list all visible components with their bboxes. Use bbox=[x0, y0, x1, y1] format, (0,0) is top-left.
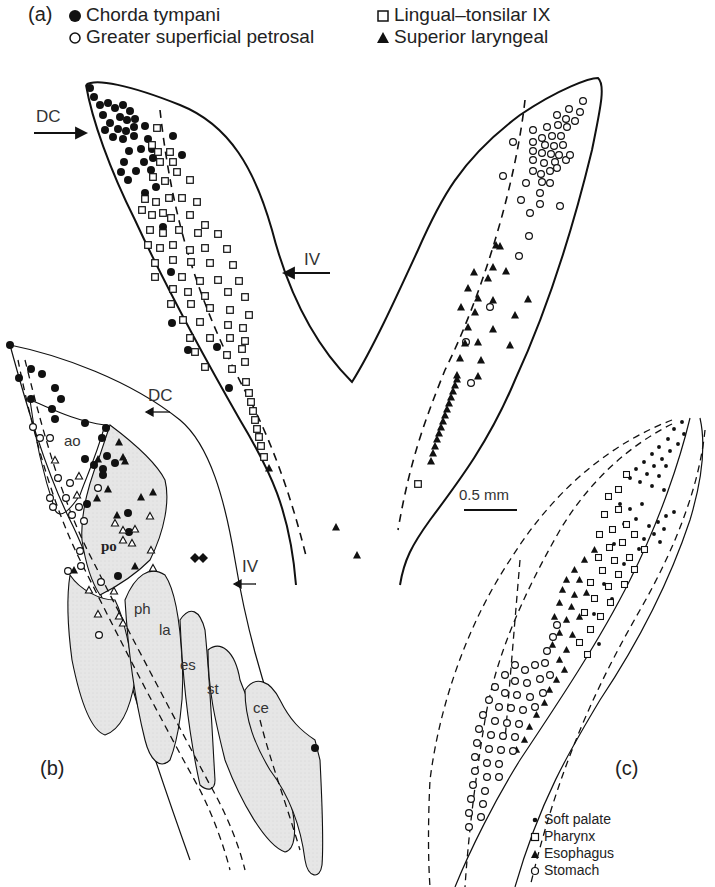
subnucleus-label-ao: ao bbox=[64, 432, 81, 449]
panel-a-tag: (a) bbox=[28, 3, 52, 26]
panel-b-diamond-marks bbox=[190, 553, 208, 563]
panel-c-tag: (c) bbox=[615, 757, 638, 780]
panel-b-shaded-subnuclei bbox=[30, 400, 323, 875]
legend-a-item-superior-laryngeal: Superior laryngeal bbox=[376, 26, 548, 48]
filled-circle-icon bbox=[68, 9, 82, 23]
open-square-icon bbox=[376, 9, 390, 23]
legend-a-item-greater-superficial-petrosal: Greater superficial petrosal bbox=[68, 26, 314, 48]
legend-c-item-pharynx: Pharynx bbox=[530, 829, 595, 844]
legend-c-item-soft-palate: Soft palate bbox=[530, 812, 611, 827]
direction-label-a-iv: IV bbox=[304, 250, 320, 270]
direction-label-b-dc: DC bbox=[148, 386, 173, 406]
open-circle-icon bbox=[68, 31, 82, 45]
figure-canvas bbox=[0, 0, 715, 887]
panel-a-arrows bbox=[34, 128, 330, 278]
scale-bar-label: 0.5 mm bbox=[459, 486, 509, 503]
small-dot-icon bbox=[530, 815, 540, 825]
open-square-icon bbox=[530, 832, 540, 842]
filled-triangle-icon bbox=[376, 31, 390, 45]
subnucleus-label-ph: ph bbox=[134, 600, 151, 617]
subnucleus-label-la: la bbox=[159, 621, 171, 638]
panel-c-points bbox=[466, 420, 686, 830]
filled-triangle-icon bbox=[530, 849, 540, 859]
direction-label-a-dc: DC bbox=[36, 107, 61, 127]
subnucleus-label-po: po bbox=[101, 538, 117, 555]
legend-c-item-stomach: Stomach bbox=[530, 863, 599, 878]
legend-a-item-lingual-tonsilar: Lingual–tonsilar IX bbox=[376, 4, 550, 26]
legend-a-item-chorda-tympani: Chorda tympani bbox=[68, 4, 220, 26]
panel-b-tag: (b) bbox=[40, 757, 64, 780]
direction-label-b-iv: IV bbox=[242, 557, 258, 577]
subnucleus-label-es: es bbox=[180, 656, 196, 673]
subnucleus-label-st: st bbox=[207, 680, 219, 697]
subnucleus-label-ce: ce bbox=[253, 699, 269, 716]
legend-c-item-esophagus: Esophagus bbox=[530, 846, 614, 861]
open-circle-icon bbox=[530, 866, 540, 876]
